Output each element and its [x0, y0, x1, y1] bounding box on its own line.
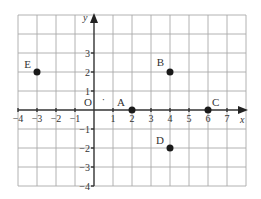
data-point-label: E [24, 58, 31, 70]
data-point [129, 107, 136, 114]
y-tick-label: −1 [79, 124, 90, 135]
data-point-label: C [212, 96, 219, 108]
origin-label: O [84, 96, 92, 108]
y-tick-label: −4 [79, 181, 90, 192]
data-point [167, 69, 174, 76]
y-axis-label: y [82, 12, 88, 23]
data-point [205, 107, 212, 114]
x-tick-label: 2 [130, 113, 135, 124]
x-tick-label: −4 [13, 113, 24, 124]
x-tick-label: 1 [111, 113, 116, 124]
data-point [34, 69, 41, 76]
y-tick-label: 3 [85, 48, 90, 59]
x-tick-label: 6 [206, 113, 211, 124]
x-tick-label: −3 [32, 113, 43, 124]
x-tick-label: −2 [51, 113, 62, 124]
annotation-dot: · [102, 94, 105, 105]
data-point-label: B [157, 56, 164, 68]
y-tick-label: 2 [85, 67, 90, 78]
data-point-label: A [117, 96, 125, 108]
x-tick-label: 5 [187, 113, 192, 124]
points: ABCDE [24, 56, 219, 152]
tick-labels: xyO−4−3−2−11234567321−1−2−3−4· [13, 12, 245, 192]
x-tick-label: 7 [225, 113, 230, 124]
x-tick-label: 3 [149, 113, 154, 124]
data-point-label: D [156, 134, 164, 146]
x-tick-label: 4 [168, 113, 173, 124]
y-tick-label: 1 [85, 86, 90, 97]
x-tick-label: −1 [70, 113, 81, 124]
coordinate-grid-chart: xyO−4−3−2−11234567321−1−2−3−4· ABCDE [0, 0, 261, 199]
y-axis-arrow-icon [90, 13, 98, 23]
x-axis-arrow-icon [238, 106, 248, 114]
data-point [167, 145, 174, 152]
x-axis-label: x [239, 114, 245, 125]
y-tick-label: −2 [79, 143, 90, 154]
y-tick-label: −3 [79, 162, 90, 173]
